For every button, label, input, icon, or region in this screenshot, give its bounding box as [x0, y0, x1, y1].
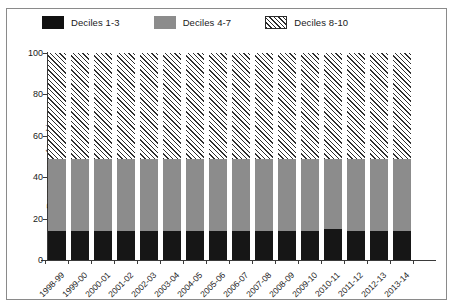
- bar-segment-deciles-4-7: [140, 159, 158, 231]
- bar-segment-deciles-1-3: [232, 231, 250, 260]
- bar-2007-08[interactable]: [255, 53, 273, 260]
- bar-segment-deciles-8-10: [163, 53, 181, 159]
- x-axis-tick-mark: [160, 260, 161, 264]
- black-swatch-icon: [42, 16, 64, 29]
- bar-1998-99[interactable]: [48, 53, 66, 260]
- bar-segment-deciles-8-10: [347, 53, 365, 159]
- x-axis-tick-mark: [344, 260, 345, 264]
- bar-segment-deciles-4-7: [370, 159, 388, 231]
- bar-segment-deciles-1-3: [278, 231, 296, 260]
- bar-segment-deciles-8-10: [94, 53, 112, 159]
- bar-segment-deciles-4-7: [393, 159, 411, 231]
- plot-area: Percentage of total income 020406080100: [48, 53, 435, 260]
- x-axis-tick-mark: [229, 260, 230, 264]
- bar-segment-deciles-4-7: [94, 159, 112, 231]
- x-axis-tick-mark: [68, 260, 69, 264]
- x-axis-tick-mark: [206, 260, 207, 264]
- bar-segment-deciles-4-7: [255, 159, 273, 231]
- bar-segment-deciles-4-7: [278, 159, 296, 231]
- x-axis-tick-mark: [45, 260, 46, 264]
- bar-segment-deciles-1-3: [370, 231, 388, 260]
- bar-2012-13[interactable]: [370, 53, 388, 260]
- bar-segment-deciles-8-10: [324, 53, 342, 159]
- x-axis-tick-mark: [137, 260, 138, 264]
- x-axis-tick-mark: [91, 260, 92, 264]
- legend-label: Deciles 1-3: [71, 17, 120, 28]
- bar-segment-deciles-1-3: [117, 231, 135, 260]
- bar-segment-deciles-4-7: [301, 159, 319, 231]
- bar-2010-11[interactable]: [324, 53, 342, 260]
- bar-segment-deciles-4-7: [71, 159, 89, 231]
- bar-2008-09[interactable]: [278, 53, 296, 260]
- legend-item-deciles-1-3: Deciles 1-3: [42, 16, 120, 29]
- x-axis-tick-mark: [390, 260, 391, 264]
- bar-2001-02[interactable]: [117, 53, 135, 260]
- x-axis-tick-mark: [252, 260, 253, 264]
- bar-segment-deciles-1-3: [140, 231, 158, 260]
- bar-segment-deciles-1-3: [393, 231, 411, 260]
- x-axis-line: [41, 260, 436, 261]
- bar-2006-07[interactable]: [232, 53, 250, 260]
- bar-segment-deciles-1-3: [209, 231, 227, 260]
- bar-1999-00[interactable]: [71, 53, 89, 260]
- bar-segment-deciles-4-7: [48, 159, 66, 231]
- bar-2003-04[interactable]: [163, 53, 181, 260]
- x-axis-tick-mark: [183, 260, 184, 264]
- bar-2005-06[interactable]: [209, 53, 227, 260]
- bar-segment-deciles-4-7: [347, 159, 365, 231]
- legend-label: Deciles 4-7: [183, 17, 232, 28]
- bar-segment-deciles-8-10: [255, 53, 273, 159]
- bar-segment-deciles-1-3: [347, 231, 365, 260]
- bar-segment-deciles-1-3: [94, 231, 112, 260]
- x-axis-tick-mark: [298, 260, 299, 264]
- x-axis-tick-mark: [114, 260, 115, 264]
- bar-segment-deciles-8-10: [209, 53, 227, 159]
- legend-item-deciles-4-7: Deciles 4-7: [154, 16, 232, 29]
- bar-segment-deciles-8-10: [370, 53, 388, 159]
- bar-segment-deciles-8-10: [232, 53, 250, 159]
- gray-swatch-icon: [154, 16, 176, 29]
- bar-segment-deciles-8-10: [301, 53, 319, 159]
- x-axis-tick-mark: [367, 260, 368, 264]
- chart-legend: Deciles 1-3 Deciles 4-7 Deciles 8-10: [42, 16, 348, 29]
- bar-segment-deciles-1-3: [163, 231, 181, 260]
- x-axis-tick-mark: [275, 260, 276, 264]
- bar-segment-deciles-8-10: [140, 53, 158, 159]
- legend-label: Deciles 8-10: [294, 17, 348, 28]
- bar-segment-deciles-1-3: [71, 231, 89, 260]
- bar-segment-deciles-4-7: [186, 159, 204, 231]
- bar-series-group: [48, 53, 435, 260]
- bar-segment-deciles-1-3: [324, 229, 342, 260]
- legend-item-deciles-8-10: Deciles 8-10: [265, 16, 348, 29]
- bar-2009-10[interactable]: [301, 53, 319, 260]
- bar-segment-deciles-4-7: [117, 159, 135, 231]
- bar-segment-deciles-8-10: [393, 53, 411, 159]
- bar-segment-deciles-4-7: [163, 159, 181, 231]
- bar-segment-deciles-8-10: [278, 53, 296, 159]
- x-axis-tick-mark: [413, 260, 414, 264]
- x-axis-tick-mark: [321, 260, 322, 264]
- bar-2000-01[interactable]: [94, 53, 112, 260]
- bar-2004-05[interactable]: [186, 53, 204, 260]
- bar-2013-14[interactable]: [393, 53, 411, 260]
- hatched-swatch-icon: [265, 16, 287, 29]
- bar-2011-12[interactable]: [347, 53, 365, 260]
- bar-segment-deciles-8-10: [71, 53, 89, 159]
- bar-segment-deciles-1-3: [301, 231, 319, 260]
- chart-screenshot: Deciles 1-3 Deciles 4-7 Deciles 8-10 Per…: [0, 0, 454, 308]
- bar-segment-deciles-1-3: [186, 231, 204, 260]
- bar-segment-deciles-8-10: [186, 53, 204, 159]
- bar-segment-deciles-4-7: [209, 159, 227, 231]
- bar-segment-deciles-8-10: [48, 53, 66, 159]
- bar-segment-deciles-8-10: [117, 53, 135, 159]
- bar-segment-deciles-1-3: [48, 231, 66, 260]
- bar-segment-deciles-4-7: [232, 159, 250, 231]
- bar-segment-deciles-4-7: [324, 159, 342, 229]
- bar-segment-deciles-1-3: [255, 231, 273, 260]
- bar-2002-03[interactable]: [140, 53, 158, 260]
